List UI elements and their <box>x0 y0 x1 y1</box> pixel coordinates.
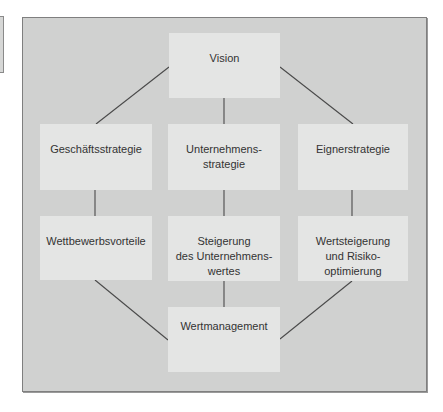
node-wertmanagement: Wertmanagement <box>168 307 280 372</box>
node-eignerstrategie: Eignerstrategie <box>298 124 408 190</box>
node-label: Geschäftsstrategie <box>50 143 142 155</box>
node-label: Wettbewerbsvorteile <box>46 235 145 247</box>
node-label: Wertsteigerung und Risiko- optimierung <box>316 235 390 277</box>
node-vision: Vision <box>169 33 280 98</box>
node-label: Eignerstrategie <box>316 143 390 155</box>
node-wettbewerbsvorteile: Wettbewerbsvorteile <box>40 216 152 280</box>
node-wertsteigerung-risikooptimierung: Wertsteigerung und Risiko- optimierung <box>298 216 408 281</box>
node-unternehmensstrategie: Unternehmens- strategie <box>168 124 280 190</box>
node-geschaeftsstrategie: Geschäftsstrategie <box>40 124 152 190</box>
node-label: Steigerung des Unternehmens- wertes <box>176 235 273 277</box>
node-steigerung-unternehmenswert: Steigerung des Unternehmens- wertes <box>168 216 280 281</box>
adjacent-figure-edge <box>0 16 4 73</box>
node-label: Wertmanagement <box>180 320 267 332</box>
node-label: Unternehmens- strategie <box>186 143 262 170</box>
node-label: Vision <box>210 52 240 64</box>
